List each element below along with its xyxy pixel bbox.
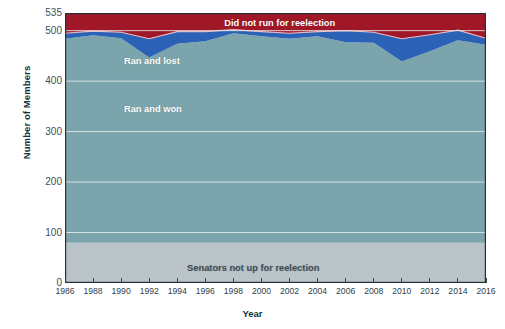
stacked-area-svg — [65, 13, 486, 283]
chart-figure: Number of Members 535 500 400 300 200 10… — [0, 0, 505, 329]
x-tick-mark-2002 — [289, 278, 290, 283]
x-tick-mark-1998 — [233, 278, 234, 283]
x-tick-mark-1992 — [149, 278, 150, 283]
x-tick-2006: 2006 — [336, 286, 355, 296]
series-label-not-up: Senators not up for reelection — [187, 263, 319, 273]
x-tick-mark-2016 — [486, 278, 487, 283]
x-tick-mark-2012 — [429, 278, 430, 283]
plot-area: Did not run for reelection Ran and lost … — [65, 13, 486, 283]
x-tick-1994: 1994 — [168, 286, 187, 296]
x-tick-mark-1994 — [177, 278, 178, 283]
x-tick-2000: 2000 — [252, 286, 271, 296]
x-axis-title: Year — [0, 308, 505, 319]
series-label-ran-and-lost: Ran and lost — [124, 56, 180, 66]
x-tick-2004: 2004 — [308, 286, 327, 296]
x-tick-1992: 1992 — [140, 286, 159, 296]
x-tick-2014: 2014 — [448, 286, 467, 296]
series-label-did-not-run: Did not run for reelection — [224, 18, 335, 28]
x-tick-mark-1988 — [93, 278, 94, 283]
y-tick-500: 500 — [18, 26, 62, 36]
x-tick-mark-1986 — [65, 278, 66, 283]
x-tick-2008: 2008 — [364, 286, 383, 296]
y-tick-300: 300 — [18, 127, 62, 137]
x-tick-1998: 1998 — [224, 286, 243, 296]
x-tick-mark-2006 — [345, 278, 346, 283]
x-tick-1988: 1988 — [84, 286, 103, 296]
x-tick-1990: 1990 — [112, 286, 131, 296]
y-tick-400: 400 — [18, 76, 62, 86]
x-tick-2012: 2012 — [420, 286, 439, 296]
y-tick-200: 200 — [18, 177, 62, 187]
x-tick-2016: 2016 — [476, 286, 495, 296]
x-tick-mark-2014 — [457, 278, 458, 283]
x-tick-mark-1996 — [205, 278, 206, 283]
x-tick-mark-2010 — [401, 278, 402, 283]
y-tick-535: 535 — [18, 8, 62, 18]
x-tick-mark-2004 — [317, 278, 318, 283]
x-tick-1986: 1986 — [55, 286, 74, 296]
x-tick-mark-2000 — [261, 278, 262, 283]
x-tick-2010: 2010 — [392, 286, 411, 296]
x-tick-mark-1990 — [121, 278, 122, 283]
y-axis-tick-labels: 535 500 400 300 200 100 0 — [14, 0, 62, 329]
y-tick-100: 100 — [18, 228, 62, 238]
x-tick-2002: 2002 — [280, 286, 299, 296]
x-tick-mark-2008 — [373, 278, 374, 283]
x-tick-1996: 1996 — [196, 286, 215, 296]
series-label-ran-and-won: Ran and won — [124, 104, 182, 114]
